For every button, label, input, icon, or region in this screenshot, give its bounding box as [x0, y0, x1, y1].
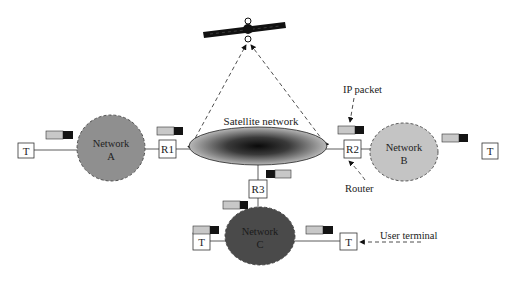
- ip-packet-pointer-arrow: [350, 98, 354, 122]
- network-a: Network A: [77, 115, 145, 181]
- network-a-label-line2: A: [107, 151, 115, 162]
- network-c-label-line1: Network: [242, 226, 279, 237]
- router-pointer-arrow: [349, 161, 365, 180]
- ip-packet-icon: [223, 201, 248, 209]
- network-b-label-line1: Network: [386, 142, 423, 153]
- ip-packet-icon: [266, 170, 291, 178]
- router-r1: R1: [159, 140, 176, 158]
- ip-packet-icon: [46, 131, 73, 139]
- ip-packet-icon: [442, 134, 468, 142]
- router-annotation: Router: [345, 183, 374, 194]
- network-b: Network B: [370, 123, 438, 181]
- router-r3-label: R3: [252, 183, 265, 195]
- terminal-bottom-right-label: T: [345, 236, 352, 248]
- ip-packet-icon: [193, 226, 219, 234]
- satellite-network-label: Satellite network: [224, 115, 299, 127]
- network-a-label-line1: Network: [93, 138, 130, 149]
- terminal-left-label: T: [23, 145, 30, 157]
- ip-packet-icon: [157, 127, 183, 135]
- satellite-network-cloud: [189, 127, 327, 165]
- terminal-bottom-left-label: T: [198, 236, 205, 248]
- terminal-left: T: [18, 143, 34, 158]
- satellite-network-diagram: Satellite network Network A Network B Ne…: [0, 0, 516, 286]
- ip-packet-annotation: IP packet: [343, 84, 382, 95]
- terminal-bottom-left: T: [193, 233, 210, 250]
- terminal-right-label: T: [487, 145, 494, 157]
- router-r1-label: R1: [161, 143, 174, 155]
- router-r2-label: R2: [346, 143, 359, 155]
- network-b-label-line2: B: [400, 155, 407, 166]
- user-terminal-annotation: User terminal: [380, 230, 438, 241]
- network-c-label-line2: C: [256, 239, 263, 250]
- network-c: Network C: [225, 207, 295, 265]
- terminal-right: T: [482, 143, 498, 159]
- terminal-bottom-right: T: [340, 233, 357, 250]
- satellite-icon: [203, 18, 286, 42]
- ip-packet-icon: [338, 126, 364, 134]
- router-r3: R3: [249, 180, 267, 198]
- router-r2: R2: [344, 140, 361, 158]
- ip-packet-icon: [306, 226, 333, 234]
